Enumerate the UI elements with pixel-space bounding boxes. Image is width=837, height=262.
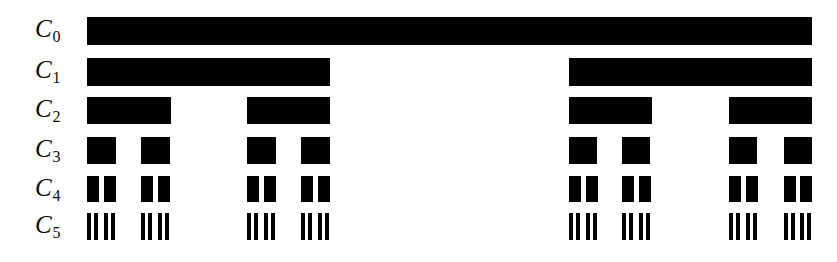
interval-bar [301,137,330,164]
interval-bar [158,213,162,240]
interval-bar [111,213,115,240]
interval-bar [141,137,170,164]
row-label-letter: C [35,15,52,42]
interval-bar [569,176,581,202]
interval-bar [736,213,740,240]
interval-bar [247,137,276,164]
interval-bar [622,176,634,202]
interval-bar [165,213,169,240]
interval-bar [318,213,322,240]
interval-bar [646,213,650,240]
interval-bar [593,213,597,240]
interval-bar [800,213,804,240]
row-label-c2: C2 [35,96,60,121]
row-label-c3: C3 [35,136,60,161]
interval-bar [104,176,116,202]
interval-bar [301,176,313,202]
interval-bar [569,97,652,124]
interval-bar [301,213,305,240]
cantor-set-figure: C0C1C2C3C4C5 [0,0,837,262]
interval-bar [87,176,99,202]
interval-bar [271,213,275,240]
row-label-letter: C [35,135,52,162]
interval-bar [807,213,811,240]
interval-bar [148,213,152,240]
interval-bar [576,213,580,240]
interval-bar [729,213,733,240]
interval-bar [87,97,171,124]
interval-bar [586,176,598,202]
row-label-letter: C [35,95,52,122]
row-label-letter: C [35,56,52,83]
row-label-subscript: 3 [52,148,60,165]
interval-bar [318,176,330,202]
interval-bar [247,97,330,124]
interval-bar [639,176,651,202]
interval-bar [746,176,758,202]
row-label-letter: C [35,174,52,201]
interval-bar [158,176,170,202]
interval-bar [325,213,329,240]
interval-bar [569,137,597,164]
row-label-c0: C0 [35,16,60,41]
interval-bar [729,176,741,202]
interval-bar [784,176,796,202]
interval-bar [586,213,590,240]
row-label-subscript: 5 [52,224,60,241]
row-label-subscript: 1 [52,69,60,86]
row-label-letter: C [35,211,52,238]
interval-bar [254,213,258,240]
interval-bar [784,137,812,164]
interval-bar [87,58,330,86]
interval-bar [629,213,633,240]
interval-bar [800,176,812,202]
interval-bar [622,213,626,240]
interval-bar [308,213,312,240]
interval-bar [94,213,98,240]
interval-bar [141,213,145,240]
interval-bar [746,213,750,240]
interval-bar [104,213,108,240]
row-label-c4: C4 [35,175,60,200]
interval-bar [141,176,153,202]
interval-bar [87,213,91,240]
interval-bar [639,213,643,240]
interval-bar [784,213,788,240]
row-label-c5: C5 [35,212,60,237]
interval-bar [753,213,757,240]
row-label-c1: C1 [35,57,60,82]
row-label-subscript: 4 [52,187,60,204]
interval-bar [264,213,268,240]
interval-bar [791,213,795,240]
row-label-subscript: 2 [52,108,60,125]
interval-bar [87,17,812,45]
interval-bar [569,213,573,240]
interval-bar [622,137,650,164]
interval-bar [729,97,812,124]
interval-bar [729,137,757,164]
interval-bar [264,176,276,202]
row-label-subscript: 0 [52,28,60,45]
bar-levels-container: C0C1C2C3C4C5 [0,0,837,262]
interval-bar [247,213,251,240]
interval-bar [87,137,116,164]
interval-bar [569,58,812,86]
interval-bar [247,176,259,202]
